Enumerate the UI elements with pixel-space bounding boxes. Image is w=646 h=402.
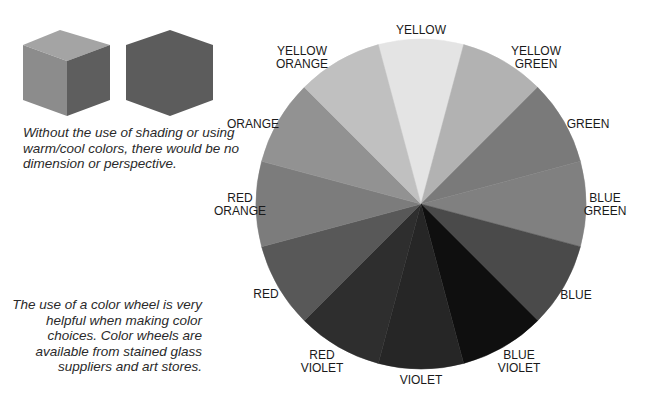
label-line: YELLOW <box>396 24 446 37</box>
label-line: GREEN <box>567 118 610 131</box>
label-line: RED <box>253 288 278 301</box>
shading-caption: Without the use of shading or using warm… <box>23 125 253 172</box>
label-line: VIOLET <box>301 362 344 375</box>
wheel-label-blue-green: BLUEGREEN <box>584 192 627 218</box>
wheel-label-green: GREEN <box>567 118 610 131</box>
wheel-label-violet: VIOLET <box>400 374 443 387</box>
label-line: ORANGE <box>214 205 266 218</box>
flat-hexagon <box>126 30 213 116</box>
shaded-cube <box>23 30 110 116</box>
wheel-label-red: RED <box>253 288 278 301</box>
wheel-label-orange: ORANGE <box>227 118 279 131</box>
label-line: GREEN <box>584 205 627 218</box>
color-wheel <box>256 39 586 369</box>
wheel-label-blue-violet: BLUEVIOLET <box>498 349 541 375</box>
wheel-label-yellow-orange: YELLOWORANGE <box>276 45 328 71</box>
wheel-label-blue: BLUE <box>560 289 591 302</box>
label-line: VIOLET <box>400 374 443 387</box>
wheel-label-red-orange: REDORANGE <box>214 192 266 218</box>
wheel-label-red-violet: REDVIOLET <box>301 349 344 375</box>
label-line: GREEN <box>511 58 561 71</box>
label-line: VIOLET <box>498 362 541 375</box>
label-line: BLUE <box>560 289 591 302</box>
wheel-label-yellow: YELLOW <box>396 24 446 37</box>
label-line: ORANGE <box>227 118 279 131</box>
color-wheel-caption: The use of a color wheel is very helpful… <box>10 297 202 375</box>
label-line: ORANGE <box>276 58 328 71</box>
wheel-label-yellow-green: YELLOWGREEN <box>511 45 561 71</box>
